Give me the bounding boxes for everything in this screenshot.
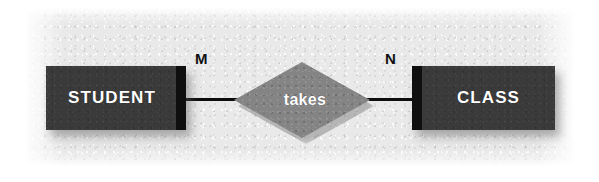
- entity-class[interactable]: CLASS: [412, 66, 555, 130]
- er-diagram: STUDENT takes CLASS M N: [0, 0, 599, 182]
- entity-student-label: STUDENT: [46, 88, 186, 108]
- relationship-takes[interactable]: takes: [234, 62, 370, 138]
- entity-student-side-face: [176, 66, 186, 130]
- relationship-takes-label: takes: [234, 62, 370, 138]
- connector-student-takes: [186, 98, 238, 101]
- entity-class-side-face: [412, 66, 422, 130]
- connector-takes-class: [366, 98, 414, 101]
- cardinality-label-n: N: [385, 50, 396, 67]
- cardinality-label-m: M: [195, 50, 208, 67]
- entity-student[interactable]: STUDENT: [46, 66, 186, 130]
- entity-class-label: CLASS: [412, 88, 555, 108]
